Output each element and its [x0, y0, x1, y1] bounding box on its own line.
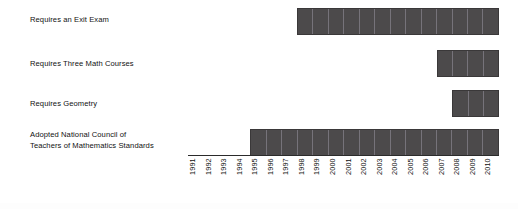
x-tick-2008: 2008 — [452, 158, 468, 188]
x-tick-1992: 1992 — [204, 158, 220, 188]
bar-cell — [468, 9, 483, 34]
x-tick-2000: 2000 — [328, 158, 344, 188]
bar-cell — [453, 51, 468, 76]
x-tick-2003: 2003 — [375, 158, 391, 188]
timeline-chart: Requires an Exit Exam Requires Three Mat… — [0, 0, 518, 209]
row-label-exit-exam: Requires an Exit Exam — [30, 15, 109, 26]
bar-cell — [406, 130, 421, 155]
bar-cell — [452, 130, 467, 155]
bar-cell — [360, 9, 375, 34]
bar-cell — [422, 9, 437, 34]
x-tick-2001: 2001 — [344, 158, 360, 188]
x-tick-1993: 1993 — [219, 158, 235, 188]
bar-cell — [391, 130, 406, 155]
x-tick-2010: 2010 — [483, 158, 499, 188]
bar-cell — [483, 130, 497, 155]
bar-exit-exam — [297, 8, 499, 35]
bar-cell — [484, 51, 498, 76]
bar-cell — [298, 130, 313, 155]
x-tick-2009: 2009 — [468, 158, 484, 188]
x-tick-1998: 1998 — [297, 158, 313, 188]
x-tick-1994: 1994 — [235, 158, 251, 188]
x-tick-1991: 1991 — [188, 158, 204, 188]
bar-cell — [344, 9, 359, 34]
bar-nctm-standards — [250, 129, 499, 156]
bar-cell — [313, 9, 328, 34]
bar-cell — [469, 91, 484, 116]
bar-cell — [422, 130, 437, 155]
x-tick-2006: 2006 — [421, 158, 437, 188]
x-tick-1997: 1997 — [281, 158, 297, 188]
x-tick-2005: 2005 — [406, 158, 422, 188]
bar-cell — [313, 130, 328, 155]
bar-cell — [484, 91, 498, 116]
bar-cell — [329, 130, 344, 155]
bar-cell — [438, 51, 453, 76]
bar-cell — [375, 130, 390, 155]
bar-cell — [437, 130, 452, 155]
bar-cell — [375, 9, 390, 34]
row-label-three-math-courses: Requires Three Math Courses — [30, 59, 134, 70]
x-tick-1996: 1996 — [266, 158, 282, 188]
x-tick-2004: 2004 — [390, 158, 406, 188]
bar-cell — [267, 130, 282, 155]
bar-cell — [406, 9, 421, 34]
bar-cell — [360, 130, 375, 155]
x-tick-1995: 1995 — [250, 158, 266, 188]
bar-cell — [329, 9, 344, 34]
bar-cell — [298, 9, 313, 34]
bar-cell — [468, 51, 483, 76]
bar-cell — [437, 9, 452, 34]
bar-cell — [468, 130, 483, 155]
bar-cell — [483, 9, 497, 34]
row-label-nctm-standards: Adopted National Council of Teachers of … — [30, 130, 154, 151]
x-tick-2007: 2007 — [437, 158, 453, 188]
bar-cell — [251, 130, 266, 155]
x-tick-1999: 1999 — [312, 158, 328, 188]
bar-three-math-courses — [437, 50, 499, 77]
bar-cell — [344, 130, 359, 155]
bar-cell — [453, 9, 468, 34]
x-tick-2002: 2002 — [359, 158, 375, 188]
row-label-geometry: Requires Geometry — [30, 99, 97, 110]
bar-cell — [391, 9, 406, 34]
bar-geometry — [452, 90, 499, 117]
bar-cell — [453, 91, 468, 116]
page-bottom-edge — [0, 203, 518, 209]
x-axis-line — [188, 155, 499, 156]
bar-cell — [282, 130, 297, 155]
